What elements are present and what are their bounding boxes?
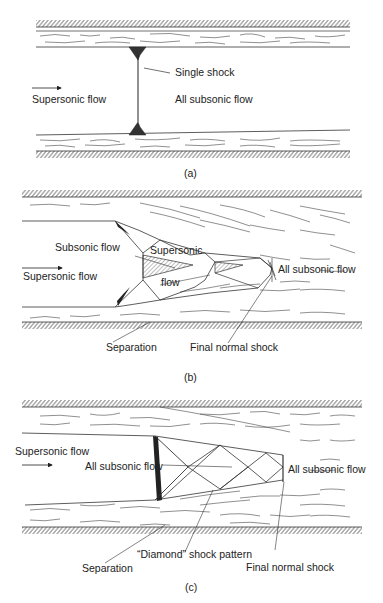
top-wall-c [22,400,362,407]
shock-train-diagram [0,0,383,603]
label-c-separation: Separation [82,563,133,574]
label-c-all-subsonic-downstream: All subsonic flow [288,464,366,475]
label-c-supersonic-flow: Supersonic flow [15,446,89,457]
label-c-final-normal-shock: Final normal shock [246,562,334,573]
bottom-wall-a [36,151,350,158]
panel-c [22,400,362,563]
label-b-supersonic-flow: Supersonic flow [23,271,97,282]
label-c-all-subsonic-core: All subsonic flow [85,461,163,472]
caption-c: (c) [185,582,197,593]
subsonic-core-b [143,255,193,278]
label-c-diamond-shock: “Diamond” shock pattern [137,549,252,560]
label-b-subsonic-flow: Subsonic flow [55,242,120,253]
label-b-all-subsonic: All subsonic flow [278,264,356,275]
label-a-supersonic-flow: Supersonic flow [32,94,106,105]
label-a-all-subsonic: All subsonic flow [175,94,253,105]
label-b-supersonic-line1: Supersonic [150,245,203,256]
label-b-final-normal-shock: Final normal shock [190,342,278,353]
caption-a: (a) [184,168,197,179]
top-wall-a [36,20,350,27]
bottom-wall-c [22,527,362,534]
label-a-single-shock: Single shock [175,67,235,78]
bottom-wall-b [22,322,362,329]
label-b-supersonic-line2: flow [161,277,180,288]
label-b-separation: Separation [106,342,157,353]
caption-b: (b) [184,372,197,383]
panel-a [32,20,350,158]
final-shock-b [268,258,276,282]
